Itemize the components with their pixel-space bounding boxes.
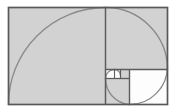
square-6-fill — [121, 70, 130, 79]
golden-spiral-figure: Fibonacci golden spiral in golden rectan… — [0, 0, 177, 112]
fill-regions — [9, 8, 168, 105]
square-1-largest-fill — [9, 8, 106, 105]
square-2-fill — [106, 8, 168, 70]
golden-spiral-canvas: Fibonacci golden spiral in golden rectan… — [0, 0, 177, 112]
